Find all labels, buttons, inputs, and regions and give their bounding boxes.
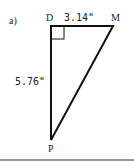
problem-label: a) [9,15,17,27]
triangle-diagram: a) D M P 3.14" 5.76" [0,0,134,165]
vertex-label-m: M [111,12,120,23]
vertex-label-p: P [48,143,54,154]
vertex-label-d: D [46,12,53,23]
side-label-dm: 3.14" [64,12,94,23]
right-triangle [51,26,113,140]
right-angle-marker [51,26,64,39]
side-label-dp: 5.76" [15,76,45,87]
